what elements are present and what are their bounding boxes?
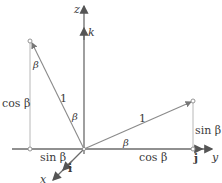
left-foot-point [28,147,32,151]
y-axis-label: y [211,151,219,164]
j-label: j [193,152,198,165]
right-vector-length-label: 1 [139,112,146,125]
left-unit-vector [32,43,84,149]
rotation-diagram: z k y j x i 1 β β cos β sin β 1 β sin β … [0,0,222,183]
right-angle-at-origin: β [122,137,129,148]
left-vector-length-label: 1 [60,92,67,105]
diagram-canvas: z k y j x i 1 β β cos β sin β 1 β sin β … [0,0,222,183]
right-unit-vector [84,102,191,149]
x-axis-label: x [40,173,47,183]
left-tip-point [28,39,32,43]
k-label: k [88,26,95,39]
z-axis-label: z [73,3,80,16]
left-angle-at-origin: β [71,111,78,122]
right-cos-label: cos β [139,151,167,164]
left-cos-label: cos β [2,97,30,110]
left-sin-label: sin β [40,151,66,164]
left-angle-at-tip: β [32,59,39,70]
right-sin-label: sin β [195,124,221,137]
origin-point [82,147,85,150]
right-foot-point [191,147,195,151]
i-label: i [68,162,72,175]
right-tip-point [191,99,195,103]
